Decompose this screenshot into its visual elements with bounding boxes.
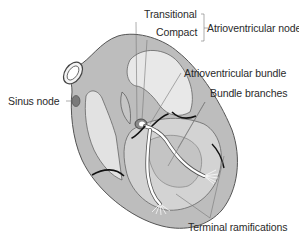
label-sinus-node: Sinus node — [8, 95, 60, 107]
label-atrioventricular-bundle: Atrioventricular bundle — [184, 67, 286, 79]
label-atrioventricular-node: Atrioventricular node — [207, 22, 299, 34]
label-compact: Compact — [156, 26, 197, 38]
sinus-node — [72, 96, 80, 107]
label-transitional: Transitional — [144, 8, 197, 20]
heart-conduction-diagram — [0, 0, 299, 237]
label-bundle-branches: Bundle branches — [210, 87, 287, 99]
label-terminal-ramifications: Terminal ramifications — [188, 221, 287, 233]
